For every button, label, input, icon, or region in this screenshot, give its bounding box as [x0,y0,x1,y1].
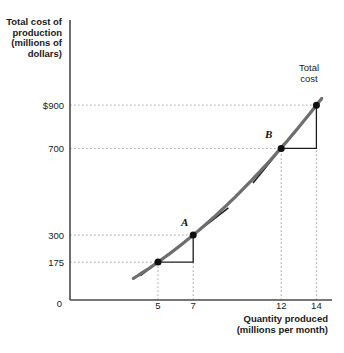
total-cost-curve [133,98,321,278]
x-tick-label: 7 [191,300,196,311]
x-tick-label: 5 [155,300,160,311]
point-dot [278,145,285,152]
y-tick-label: $900 [43,100,64,111]
x-tick-label: 14 [311,300,322,311]
x-tick-label: 12 [276,300,287,311]
point-label-b: B [265,128,272,140]
point-label-a: A [181,216,188,228]
y-tick-label: 700 [48,143,64,154]
x-axis-title: Quantity produced (millions per month) [237,313,328,335]
point-dot [155,259,162,266]
point-dot [190,232,197,239]
y-tick-label: 175 [48,257,64,268]
curve-label: Total cost [288,62,330,84]
y-tick-label: 300 [48,230,64,241]
figure-canvas: Total cost of production (millions of do… [0,0,344,353]
origin-tick-label: 0 [50,298,62,309]
point-dot [313,102,320,109]
